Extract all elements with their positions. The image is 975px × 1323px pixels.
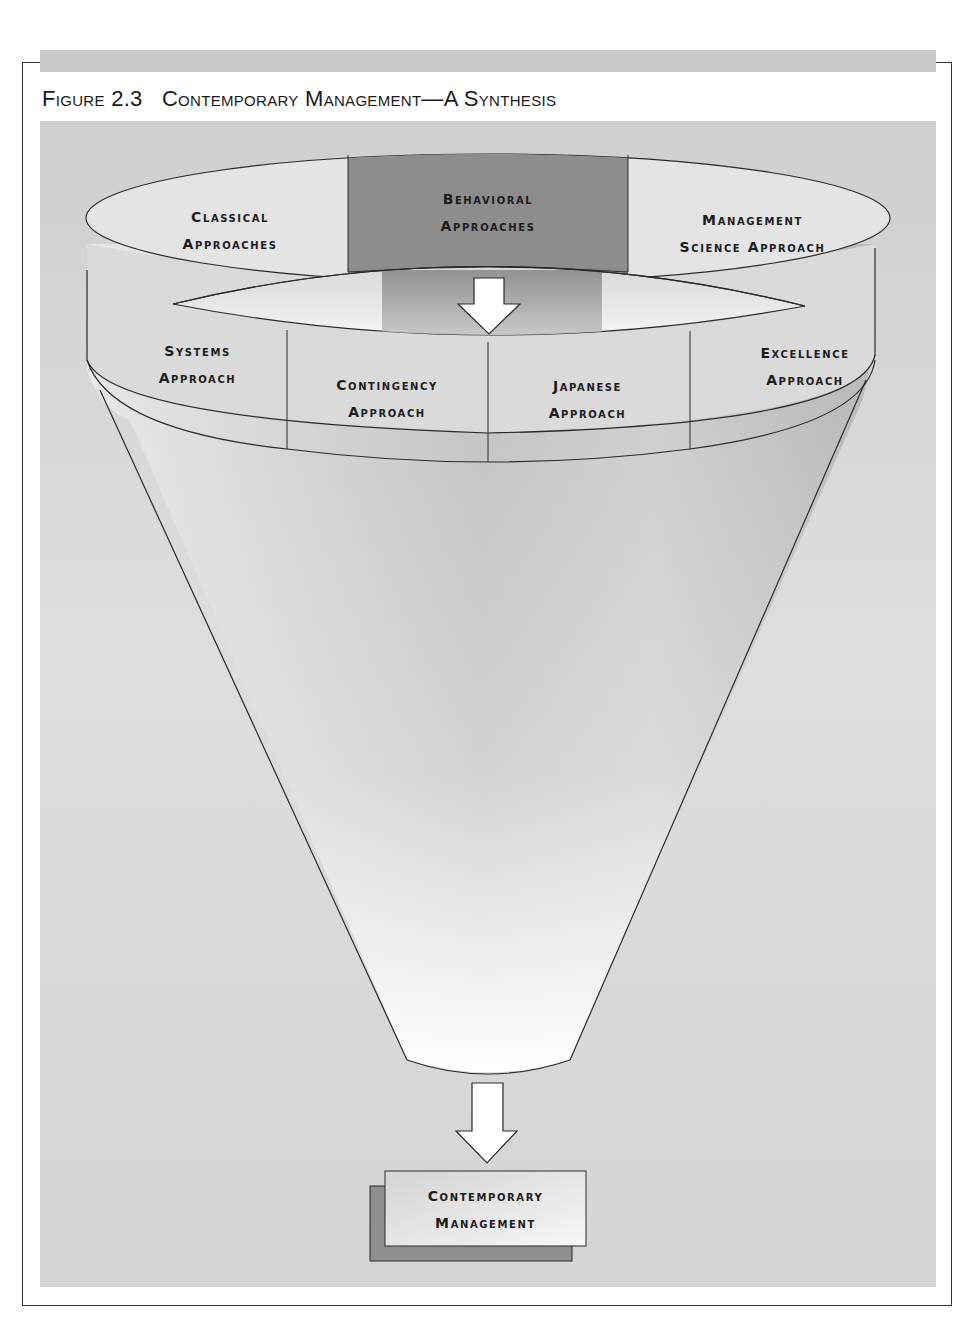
- label-contingency: Contingency Approach: [297, 372, 477, 426]
- label-management-science: Management Science Approach: [640, 207, 865, 261]
- label-behavioral: Behavioral Approaches: [408, 186, 568, 240]
- arrow-down-icon: [456, 1083, 517, 1163]
- label-excellence: Excellence Approach: [730, 340, 880, 394]
- label-contemporary-management: Contemporary Management: [385, 1183, 586, 1237]
- label-classical: Classical Approaches: [150, 204, 310, 258]
- label-systems: Systems Approach: [130, 338, 265, 392]
- label-japanese: Japanese Approach: [515, 373, 660, 427]
